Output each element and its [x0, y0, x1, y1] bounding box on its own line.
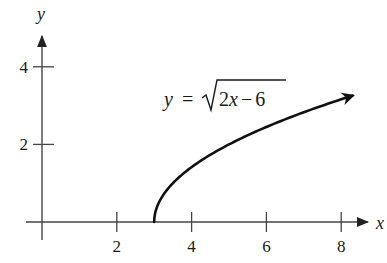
x-tick-label: 6: [262, 237, 271, 256]
x-tick-label: 8: [337, 237, 346, 256]
equation-lhs: y: [162, 88, 173, 111]
sqrt-curve: [154, 96, 352, 222]
equation-equals: =: [182, 88, 193, 110]
plot-svg: 2468 24 x y y = 2x−6: [0, 0, 387, 263]
x-axis-label: x: [375, 213, 384, 233]
equation-radicand: 2x−6: [219, 88, 265, 110]
x-tick-label: 4: [187, 237, 196, 256]
svg-text:y =: y =: [162, 88, 193, 111]
y-tick-label: 4: [20, 58, 29, 77]
x-axis-ticks: 2468: [113, 212, 346, 256]
y-axis-ticks: 24: [20, 58, 55, 155]
clipped-header-text: [0, 0, 387, 5]
x-tick-label: 2: [113, 237, 122, 256]
equation-annotation: y = 2x−6: [162, 80, 286, 111]
y-tick-label: 2: [20, 135, 29, 154]
y-axis-label: y: [35, 4, 45, 24]
function-graph-figure: 2468 24 x y y = 2x−6: [0, 0, 387, 263]
